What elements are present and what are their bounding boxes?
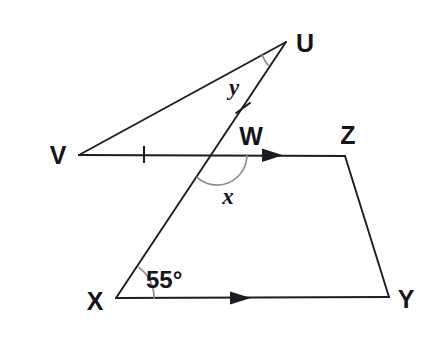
segment-X-Y [116,297,389,298]
vertex-label-U: U [296,29,314,57]
angle-arcs [139,55,268,298]
congruence-tick-WU [236,103,251,114]
parallel-arrow-VZ [262,149,283,163]
segment-X-U [116,42,286,298]
angle-label-x: x [221,184,234,209]
vertex-label-Y: Y [398,285,415,313]
segment-Z-Y [345,156,389,297]
geometry-diagram-canvas: U V W X Y Z y x 55° [0,0,430,341]
vertex-label-W: W [239,122,263,150]
angle-arc-W [197,155,247,185]
angle-label-55-degrees: 55° [146,266,182,293]
angle-label-y: y [226,75,240,100]
direction-arrows [230,149,283,305]
vertex-label-V: V [50,141,67,169]
vertex-label-Z: Z [340,121,355,149]
parallel-arrow-XY [230,292,251,305]
angle-labels: y x 55° [146,75,240,293]
vertex-label-X: X [87,287,104,315]
geometry-figure: U V W X Y Z y x 55° [0,0,430,341]
angle-arc-U [262,55,268,65]
